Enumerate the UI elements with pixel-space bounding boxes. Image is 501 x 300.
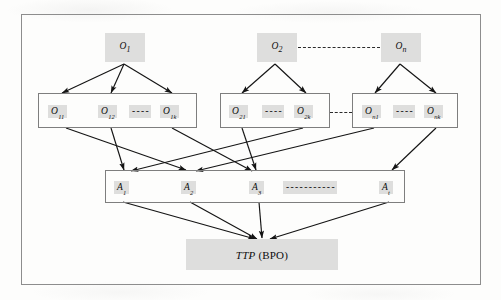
node-objective-on[interactable]: On <box>381 33 421 62</box>
node-objective-o2-label: O2 <box>271 41 282 54</box>
node-sub-objective-o21[interactable]: O21 <box>229 105 248 118</box>
node-activity-a1[interactable]: A1 <box>114 181 129 194</box>
group-n-ellipsis: - - - - <box>393 105 415 118</box>
node-activity-a3[interactable]: A3 <box>249 181 264 194</box>
diagram-canvas: O1 O2 On O11 O12 - - - - O1k O21 - - - -… <box>0 0 501 300</box>
node-sub-objective-o11[interactable]: O11 <box>48 105 67 118</box>
activity-row-ellipsis: - - - - - - - - - - - <box>283 181 337 194</box>
node-objective-on-label: On <box>395 41 406 54</box>
node-sub-objective-o1k[interactable]: O1k <box>160 105 179 118</box>
dashed-link-o2-on <box>298 47 380 48</box>
node-ttp-bpo[interactable]: TTP(BPO) <box>186 239 338 270</box>
node-objective-o1[interactable]: O1 <box>105 33 145 62</box>
node-activity-at[interactable]: At <box>379 181 393 194</box>
node-sub-objective-o12[interactable]: O12 <box>98 105 117 118</box>
dashed-link-group2-groupn <box>330 112 352 113</box>
group-2-ellipsis: - - - - <box>262 105 284 118</box>
ttp-acronym: TTP <box>236 249 259 261</box>
ttp-bpo-suffix: (BPO) <box>258 249 288 261</box>
node-sub-objective-onk[interactable]: Onk <box>424 105 443 118</box>
node-objective-o2[interactable]: O2 <box>257 33 297 62</box>
node-sub-objective-o2k[interactable]: O2k <box>294 105 313 118</box>
node-activity-a2[interactable]: A2 <box>181 181 196 194</box>
node-objective-o1-label: O1 <box>119 41 130 54</box>
node-sub-objective-on1[interactable]: On1 <box>362 105 381 118</box>
group-1-ellipsis: - - - - <box>129 105 151 118</box>
